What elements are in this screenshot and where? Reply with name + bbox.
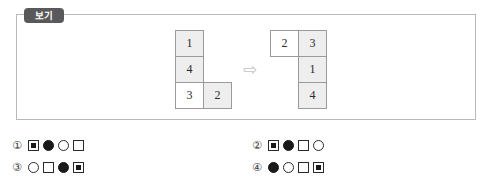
square-empty-icon	[43, 162, 54, 173]
circle-empty-icon	[313, 140, 324, 151]
square-nested-icon	[313, 162, 324, 173]
option-number: ②	[252, 139, 262, 152]
option-3[interactable]: ③	[12, 158, 85, 176]
example-box	[16, 14, 476, 120]
option-4[interactable]: ④	[252, 158, 325, 176]
square-empty-icon	[73, 140, 84, 151]
option-number: ④	[252, 161, 262, 174]
square-empty-icon	[298, 162, 309, 173]
option-number: ③	[12, 161, 22, 174]
circle-filled-icon	[43, 140, 54, 151]
circle-filled-icon	[283, 140, 294, 151]
circle-filled-icon	[58, 162, 69, 173]
square-empty-icon	[298, 140, 309, 151]
option-2[interactable]: ②	[252, 136, 325, 154]
square-nested-icon	[73, 162, 84, 173]
circle-filled-icon	[268, 162, 279, 173]
circle-empty-icon	[28, 162, 39, 173]
circle-empty-icon	[283, 162, 294, 173]
circle-empty-icon	[58, 140, 69, 151]
answer-options: ①②③④	[0, 134, 494, 192]
square-nested-icon	[268, 140, 279, 151]
option-number: ①	[12, 139, 22, 152]
example-tab-label: 보기	[24, 8, 64, 23]
question-page: 보기 1432 ⇨ 2314 ①②③④	[0, 0, 494, 192]
option-1[interactable]: ①	[12, 136, 85, 154]
square-nested-icon	[28, 140, 39, 151]
